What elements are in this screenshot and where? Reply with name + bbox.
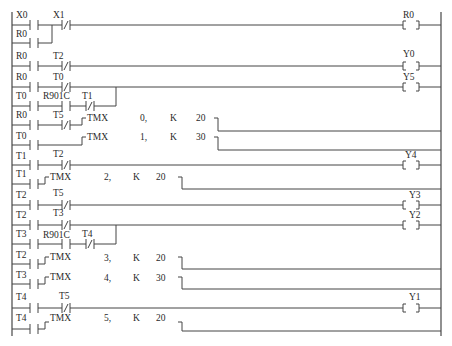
contact-nc-icon	[62, 303, 70, 313]
element-label: 0,	[140, 113, 147, 123]
wire	[178, 277, 441, 289]
element-label: Y5	[403, 72, 415, 82]
element-label: T4	[82, 229, 93, 239]
contact-no-icon	[30, 101, 38, 111]
element-label: 3,	[104, 253, 111, 263]
element-label: 20	[156, 172, 166, 182]
rung-1: X0 X1 R0 R0	[12, 10, 441, 48]
coil-label: R0	[403, 10, 414, 20]
element-label: T5	[59, 291, 70, 301]
element-label: Y4	[405, 150, 417, 160]
element-label: T1	[82, 91, 93, 101]
coil-icon	[403, 62, 419, 70]
element-label: R0	[16, 51, 27, 61]
contact-no-icon	[30, 324, 38, 334]
wire	[178, 257, 441, 269]
element-label: TMX	[87, 113, 108, 123]
contact-no-icon	[30, 220, 38, 230]
element-label: T3	[53, 208, 64, 218]
contact-no-icon	[30, 160, 38, 170]
element-label: 30	[156, 273, 166, 283]
coil-icon	[403, 201, 419, 209]
rung-10: T2 TMX 3, K 20	[12, 250, 441, 269]
element-label: K	[170, 113, 177, 123]
element-label: K	[133, 313, 140, 323]
element-label: T2	[16, 190, 27, 200]
element-label: K	[133, 253, 140, 263]
contact-no-icon	[30, 120, 38, 130]
element-label: 2,	[104, 172, 111, 182]
rung-7: T1 TMX 2, K 20	[12, 169, 441, 189]
rung-13: T4 TMX 5, K 20	[12, 313, 441, 334]
rung-2: R0 T2 Y0	[12, 49, 441, 71]
coil-icon	[403, 221, 419, 229]
rung-9: T2 T3 Y2 T3 R901C T4	[12, 208, 441, 249]
contact-nc-icon	[62, 20, 70, 30]
element-label: K	[170, 132, 177, 142]
contact-no-icon	[30, 20, 38, 30]
element-label: 4,	[104, 273, 111, 283]
element-label: T5	[53, 188, 64, 198]
element-label: Y1	[409, 292, 421, 302]
element-label: T3	[16, 270, 27, 280]
contact-no-icon	[30, 259, 38, 269]
element-label: T0	[16, 91, 27, 101]
contact-label: X1	[53, 10, 65, 20]
element-label: T1	[16, 151, 27, 161]
element-label: T0	[16, 131, 27, 141]
element-label: T4	[16, 313, 27, 323]
element-label: R0	[16, 72, 27, 82]
contact-nc-icon	[62, 61, 70, 71]
rung-3: R0 T0 Y5 T0 R901C T1	[12, 72, 441, 111]
rung-5: T0 TMX 1, K 30	[12, 131, 441, 150]
element-label: T2	[16, 250, 27, 260]
element-label: T2	[53, 51, 64, 61]
element-label: T5	[53, 110, 64, 120]
element-label: Y3	[409, 190, 421, 200]
element-label: T1	[16, 169, 27, 179]
element-label: 1,	[140, 132, 147, 142]
element-label: 20	[196, 113, 206, 123]
element-label: 30	[196, 132, 206, 142]
contact-label: R0	[16, 29, 27, 39]
rung-6: T1 T2 Y4	[12, 149, 441, 170]
element-label: T0	[53, 72, 64, 82]
element-label: K	[133, 172, 140, 182]
contact-label: X0	[16, 10, 28, 20]
contact-nc-icon	[62, 160, 70, 170]
contact-no-icon	[30, 279, 38, 289]
element-label: T2	[16, 210, 27, 220]
contact-no-icon	[30, 61, 38, 71]
element-label: Y2	[409, 210, 421, 220]
contact-no-icon	[30, 200, 38, 210]
wire	[214, 118, 441, 131]
element-label: T4	[16, 292, 27, 302]
contact-no-icon	[30, 140, 38, 150]
rung-8: T2 T5 Y3	[12, 188, 441, 210]
element-label: 20	[156, 313, 166, 323]
contact-no-icon	[30, 303, 38, 313]
element-label: TMX	[50, 252, 71, 262]
element-label: Y0	[403, 49, 415, 59]
element-label: T3	[16, 229, 27, 239]
element-label: TMX	[50, 313, 71, 323]
rung-12: T4 T5 Y1	[12, 291, 441, 313]
rung-4: R0 T5 TMX 0, K 20	[12, 110, 441, 131]
contact-nc-icon	[86, 239, 94, 249]
contact-nc-icon	[86, 101, 94, 111]
coil-icon	[403, 304, 419, 312]
coil-icon	[403, 83, 419, 91]
contact-no-icon	[30, 239, 38, 249]
element-label: 5,	[104, 313, 111, 323]
element-label: R901C	[43, 230, 70, 240]
element-label: 20	[156, 253, 166, 263]
contact-nc-icon	[62, 220, 70, 230]
wire	[178, 322, 441, 331]
contact-no-icon	[30, 38, 38, 48]
element-label: R0	[16, 110, 27, 120]
element-label: R901C	[43, 91, 70, 101]
coil-icon	[403, 21, 419, 29]
ladder-diagram: X0 X1 R0 R0 R0 T2 Y0 R0 T0 Y5 T0 R901C T…	[0, 0, 452, 346]
contact-no-icon	[62, 239, 70, 249]
coil-icon	[403, 161, 419, 169]
